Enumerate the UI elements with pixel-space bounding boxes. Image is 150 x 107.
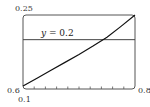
plot-frame — [23, 15, 135, 89]
y-min-label: 0.1 — [18, 95, 31, 104]
hline-annotation: y = 0.2 — [40, 28, 74, 38]
hline-annotation-value: = 0.2 — [46, 28, 74, 38]
x-max-label: 0.8 — [138, 86, 150, 95]
y-max-label: 0.25 — [15, 4, 33, 13]
chart: 0.25 0.6 0.1 0.8 y = 0.2 — [0, 0, 150, 107]
curve-line — [23, 15, 135, 86]
x-min-label: 0.6 — [7, 86, 20, 95]
